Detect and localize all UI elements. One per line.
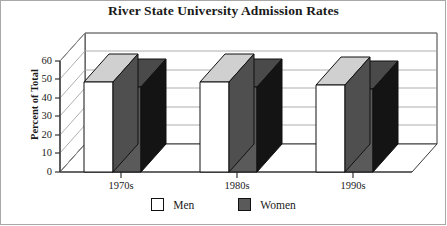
bar-group-1980s [200,54,282,172]
bar-group-1970s [84,54,166,172]
bar-group-1990s [316,57,398,172]
y-tick-label-30: 30 [26,111,52,122]
bar-men-1970s-front [84,82,113,172]
bar-men-1980s-front [200,82,229,172]
y-tick-label-60: 60 [26,56,52,67]
x-tick-label-1970s: 1970s [91,180,151,191]
legend-entry-women[interactable]: Women [238,198,295,211]
plot-area [0,0,447,226]
y-tick-label-50: 50 [26,74,52,85]
x-tick-label-1990s: 1990s [323,180,383,191]
bar-men-1990s-front [316,85,345,172]
legend-swatch-women-icon [238,198,251,211]
legend-swatch-men-icon [151,198,164,211]
y-tick-label-20: 20 [26,130,52,141]
chart-screenshot: River State University Admission Rates [0,0,447,226]
x-tick-label-1980s: 1980s [207,180,267,191]
legend-label-men: Men [173,199,194,211]
legend-label-women: Women [260,199,295,211]
y-tick-label-10: 10 [26,148,52,159]
chart-legend: Men Women [0,198,447,211]
y-tick-label-0: 0 [26,167,52,178]
y-tick-label-40: 40 [26,93,52,104]
y-axis [55,61,60,172]
legend-entry-men[interactable]: Men [151,198,194,211]
